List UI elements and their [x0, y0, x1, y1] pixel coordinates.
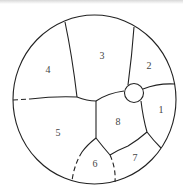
region-label-8: 8 [116, 116, 121, 127]
boundary-2-3 [128, 27, 134, 85]
region-label-5: 5 [56, 127, 61, 138]
region-label-1: 1 [159, 104, 164, 115]
region-label-3: 3 [100, 50, 105, 61]
boundary-1-7 [147, 132, 161, 148]
boundary-4-5-dashed [13, 99, 30, 100]
boundary-3-8 [96, 91, 124, 101]
region-label-6: 6 [93, 158, 98, 169]
boundary-6-7-dashed [110, 155, 115, 182]
boundary-3-4 [65, 22, 77, 97]
boundary-3-5 [77, 97, 96, 101]
boundary-1-8 [141, 101, 147, 132]
small-circle [125, 84, 144, 103]
boundary-5-6-dashed [72, 152, 82, 181]
region-label-7: 7 [133, 152, 138, 163]
region-label-4: 4 [46, 64, 51, 75]
boundary-4-5 [30, 97, 77, 99]
boundary-6-8 [96, 138, 110, 155]
boundary-5-6 [82, 138, 96, 152]
region-diagram: 1 2 3 4 5 6 7 8 [0, 0, 183, 194]
boundary-1-2 [143, 84, 175, 89]
region-label-2: 2 [147, 60, 152, 71]
boundary-7-8 [110, 132, 147, 155]
